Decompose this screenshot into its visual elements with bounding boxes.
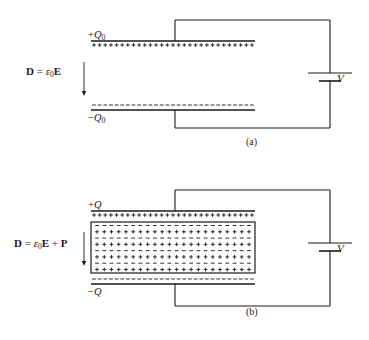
figure-a: +Q0 −Q0 D = ε0E V (a) [0, 0, 369, 170]
battery-voltage-label-a: V [337, 73, 344, 84]
dielectric-charge-row-6-positive [95, 255, 251, 259]
top-plate-charge-label-b: +Q [88, 200, 102, 211]
displacement-field-equation-b: D = ε0E + P [14, 238, 68, 250]
field-arrow-b [82, 232, 86, 266]
figure-caption-a: (a) [246, 137, 257, 147]
battery-symbol-a [308, 73, 352, 81]
bottom-plate-charge-label-a: −Q0 [88, 113, 105, 124]
displacement-field-equation-a: D = ε0E [26, 66, 61, 78]
dielectric-charge-row-8-positive [95, 268, 251, 272]
field-arrow-head [82, 91, 86, 96]
figure-b-drawing [0, 170, 369, 340]
top-plate-surface-charges [92, 43, 254, 47]
top-plate-surface-charges [92, 213, 254, 217]
battery-symbol-b [308, 243, 352, 251]
figure-caption-b: (b) [246, 307, 258, 317]
dielectric-charge-row-4-positive [95, 242, 251, 246]
battery-voltage-label-b: V [337, 243, 344, 254]
dielectric-slab-outline [91, 222, 255, 273]
dielectric-charge-row-2-positive [95, 230, 251, 234]
figure-a-drawing [0, 0, 369, 170]
figure-b: +Q −Q D = ε0E + P V (b) [0, 170, 369, 340]
top-plate-charge-label-a: +Q0 [88, 30, 105, 41]
bottom-plate-charge-label-b: −Q [88, 287, 102, 298]
field-arrow-a [82, 62, 86, 96]
field-arrow-head [82, 261, 86, 266]
